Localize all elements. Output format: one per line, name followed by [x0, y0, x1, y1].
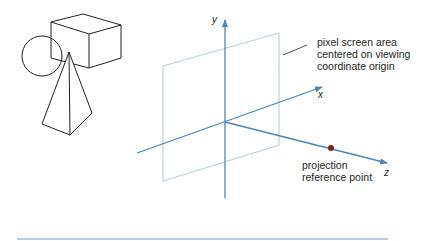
- screen-plane: [163, 33, 279, 181]
- screen-area-line-1: pixel screen area: [317, 36, 410, 48]
- x-axis: [137, 87, 322, 153]
- leader-line: [283, 45, 307, 55]
- x-axis-label: x: [318, 89, 323, 100]
- screen-area-label: pixel screen area centered on viewing co…: [317, 36, 410, 72]
- z-axis: [225, 122, 387, 163]
- sphere-shape: [22, 36, 62, 76]
- prp-line-2: reference point: [302, 171, 372, 183]
- projection-reference-point: [328, 145, 334, 151]
- y-axis-label: y: [212, 14, 217, 25]
- screen-area-line-3: coordinate origin: [317, 60, 410, 72]
- pyramid-shape: [42, 52, 92, 135]
- z-axis-label: z: [384, 167, 389, 178]
- screen-area-line-2: centered on viewing: [317, 48, 410, 60]
- scene-objects: [22, 14, 121, 135]
- prp-line-1: projection: [302, 159, 372, 171]
- prp-label: projection reference point: [302, 159, 372, 183]
